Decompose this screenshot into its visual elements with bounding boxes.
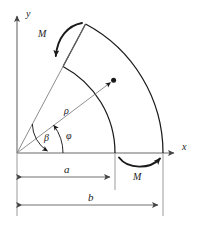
figure-container: y x M M ρ β φ a b	[0, 0, 205, 227]
dimension-label-a: a	[64, 164, 70, 175]
y-axis-label: y	[26, 9, 30, 19]
upper-moment-curve	[56, 23, 82, 56]
lower-moment-label: M	[133, 172, 141, 182]
phi-angle-arc	[54, 125, 63, 153]
phi-angle-label: φ	[66, 131, 72, 141]
diagram-canvas	[0, 0, 205, 227]
dimension-extension-lines	[17, 153, 163, 216]
outer-arc	[86, 24, 163, 153]
rho-line	[17, 83, 111, 154]
beta-angle-label: β	[44, 133, 49, 143]
upper-moment-arrow	[56, 23, 82, 56]
rho-label: ρ	[64, 106, 69, 116]
upper-moment-label: M	[38, 29, 46, 39]
x-axis-label: x	[182, 142, 186, 152]
lower-moment-curve	[119, 158, 160, 167]
dimension-label-b: b	[88, 192, 94, 203]
lower-moment-arrow	[119, 158, 160, 167]
sector-upper-radial-line	[17, 24, 86, 153]
curved-bar-sector	[17, 24, 163, 153]
rho-endpoint-dot	[111, 78, 116, 83]
